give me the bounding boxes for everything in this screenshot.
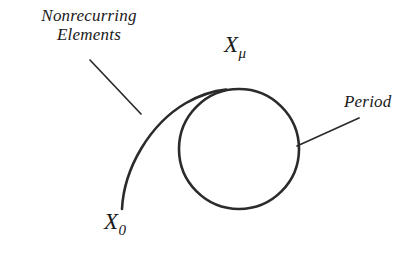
label-period: Period (344, 92, 391, 111)
figure-canvas: Nonrecurring Elements Period Xμ X0 (0, 0, 418, 256)
label-nonrecurring-line1: Nonrecurring (41, 6, 136, 25)
x-mu-base: X (224, 32, 238, 57)
period-cycle-circle (179, 89, 299, 209)
label-x-mu: Xμ (224, 32, 246, 62)
x-zero-subscript: 0 (118, 222, 126, 238)
label-nonrecurring-elements: Nonrecurring Elements (24, 6, 154, 44)
label-nonrecurring-line2: Elements (24, 25, 154, 44)
x-zero-base: X (104, 209, 118, 234)
x-mu-subscript: μ (238, 45, 246, 61)
leader-line-nonrecurring (90, 60, 141, 114)
leader-line-period (297, 118, 359, 146)
label-x-zero: X0 (104, 209, 126, 239)
nonrecurring-tail-path (122, 90, 226, 209)
